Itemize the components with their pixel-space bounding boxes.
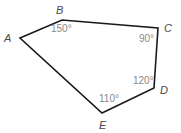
angle-label-e: 110° <box>99 93 119 104</box>
angle-label-b: 150° <box>51 23 72 34</box>
angle-label-d: 120° <box>133 75 154 86</box>
pentagon-diagram: A B C D E 150° 90° 120° 110° <box>0 0 181 133</box>
pentagon-outline <box>20 20 158 113</box>
angle-label-c: 90° <box>139 33 154 44</box>
vertex-label-a: A <box>3 32 11 44</box>
vertex-label-d: D <box>160 84 168 96</box>
vertex-label-c: C <box>164 22 172 34</box>
vertex-label-e: E <box>99 119 107 131</box>
vertex-label-b: B <box>56 4 63 16</box>
